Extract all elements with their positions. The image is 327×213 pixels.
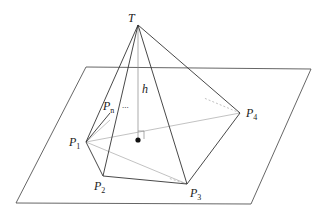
label-pn: Pn <box>102 99 114 115</box>
pyramid-diagram: T h Pn ... P1 P2 P3 P4 <box>0 0 327 213</box>
edge-t-p4 <box>138 25 240 113</box>
label-p4-sub: 4 <box>253 113 257 122</box>
label-height-h: h <box>142 82 148 96</box>
label-p1: P1 <box>68 135 80 151</box>
label-p2-sub: 2 <box>101 186 105 195</box>
foot-point <box>135 137 140 142</box>
base-plane <box>16 67 311 204</box>
label-p3-sub: 3 <box>197 193 201 202</box>
hidden-p4-dash <box>204 98 240 113</box>
label-apex-t: T <box>128 11 136 25</box>
label-p3: P3 <box>189 186 201 202</box>
hidden-p1-p4 <box>86 113 240 142</box>
label-pn-sub: n <box>110 106 114 115</box>
label-p4: P4 <box>245 106 257 122</box>
hidden-p1-pn <box>86 120 110 142</box>
label-p2: P2 <box>93 179 105 195</box>
hidden-p1-p3 <box>86 142 187 184</box>
label-p1-sub: 1 <box>76 142 80 151</box>
label-ellipsis: ... <box>122 100 129 110</box>
edge-t-p1 <box>86 25 138 142</box>
edge-t-p3 <box>138 25 187 184</box>
